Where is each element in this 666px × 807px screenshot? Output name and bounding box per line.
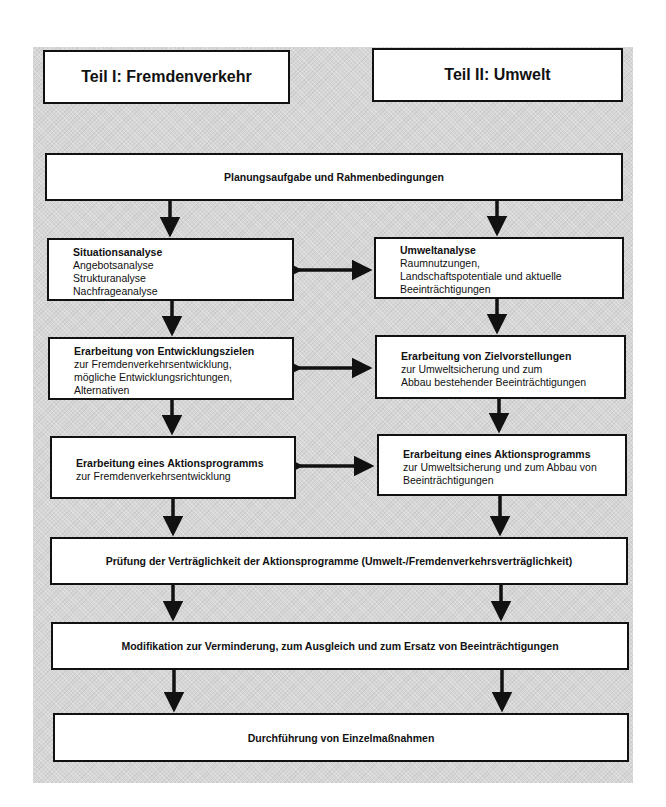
- box-aktionsprogramm-umwelt: Erarbeitung eines Aktionsprogramms zur U…: [377, 434, 627, 496]
- box-title: Erarbeitung von Entwicklungszielen: [74, 345, 292, 358]
- step-durchfuehrung: Durchführung von Einzelmaßnahmen: [53, 713, 629, 762]
- step-label: Planungsaufgabe und Rahmenbedingungen: [224, 171, 444, 183]
- step-pruefung-vertraeglichkeit: Prüfung der Verträglichkeit der Aktionsp…: [50, 537, 628, 585]
- step-label: Prüfung der Verträglichkeit der Aktionsp…: [106, 555, 572, 567]
- step-planungsaufgabe: Planungsaufgabe und Rahmenbedingungen: [45, 153, 623, 201]
- box-line: Beeinträchtigungen: [400, 283, 622, 296]
- box-line: zur Umweltsicherung und zum Abbau von: [403, 461, 625, 474]
- step-modifikation: Modifikation zur Verminderung, zum Ausgl…: [51, 622, 629, 670]
- box-line: Landschaftspotentiale und aktuelle: [400, 270, 622, 283]
- header-teil-1: Teil I: Fremdenverkehr: [43, 50, 290, 104]
- box-line: Abbau bestehender Beeinträchtigungen: [401, 376, 624, 389]
- box-line: zur Fremdenverkehrsentwicklung,: [74, 358, 292, 371]
- box-line: zur Fremdenverkehrsentwicklung: [76, 470, 294, 483]
- box-line: mögliche Entwicklungsrichtungen,: [74, 371, 292, 384]
- box-zielvorstellungen: Erarbeitung von Zielvorstellungen zur Um…: [375, 335, 626, 399]
- step-label: Modifikation zur Verminderung, zum Ausgl…: [121, 640, 558, 652]
- header-teil-1-label: Teil I: Fremdenverkehr: [81, 68, 251, 86]
- box-line: Raumnutzungen,: [400, 257, 622, 270]
- box-situationsanalyse: Situationsanalyse Angebotsanalyse Strukt…: [47, 238, 294, 301]
- box-title: Umweltanalyse: [400, 244, 622, 257]
- box-line: Alternativen: [74, 384, 292, 397]
- box-title: Erarbeitung eines Aktionsprogramms: [403, 448, 625, 461]
- step-label: Durchführung von Einzelmaßnahmen: [248, 732, 435, 744]
- box-line: zur Umweltsicherung und zum: [401, 363, 624, 376]
- header-teil-2-label: Teil II: Umwelt: [444, 66, 550, 84]
- connector-arrows: [0, 0, 666, 807]
- box-line: Beeinträchtigungen: [403, 474, 625, 487]
- box-title: Situationsanalyse: [73, 246, 292, 259]
- box-line: Nachfrageanalyse: [73, 285, 292, 298]
- box-entwicklungsziele: Erarbeitung von Entwicklungszielen zur F…: [48, 337, 294, 400]
- box-umweltanalyse: Umweltanalyse Raumnutzungen, Landschafts…: [374, 237, 624, 299]
- box-title: Erarbeitung eines Aktionsprogramms: [76, 457, 294, 470]
- box-aktionsprogramm-fremdenverkehr: Erarbeitung eines Aktionsprogramms zur F…: [50, 436, 296, 499]
- box-line: Strukturanalyse: [73, 272, 292, 285]
- box-line: Angebotsanalyse: [73, 259, 292, 272]
- header-teil-2: Teil II: Umwelt: [372, 48, 623, 102]
- box-title: Erarbeitung von Zielvorstellungen: [401, 350, 624, 363]
